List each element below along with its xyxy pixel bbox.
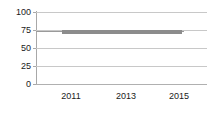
y-axis-tick-label-100: 100 xyxy=(0,8,31,17)
x-axis-tick-label-2013: 2013 xyxy=(116,92,136,101)
x-axis-tick-label-2015: 2015 xyxy=(169,92,189,101)
gridline-25 xyxy=(36,66,207,67)
series-line-main xyxy=(62,30,182,34)
x-axis-tick-label-2011: 2011 xyxy=(61,92,80,101)
series-line-lead-in xyxy=(36,31,62,32)
line-chart: 100 75 50 25 0 2011 2013 2015 xyxy=(0,0,219,113)
gridline-0-baseline xyxy=(36,84,207,85)
y-axis-tick-label-25: 25 xyxy=(0,62,31,71)
y-axis-tick-label-75: 75 xyxy=(0,26,31,35)
plot-area xyxy=(36,12,207,84)
y-axis-tick-label-0: 0 xyxy=(0,80,31,89)
y-axis-tick-label-50: 50 xyxy=(0,44,31,53)
gridline-100 xyxy=(36,12,207,13)
series-line-tail xyxy=(182,31,184,32)
gridline-50 xyxy=(36,48,207,49)
